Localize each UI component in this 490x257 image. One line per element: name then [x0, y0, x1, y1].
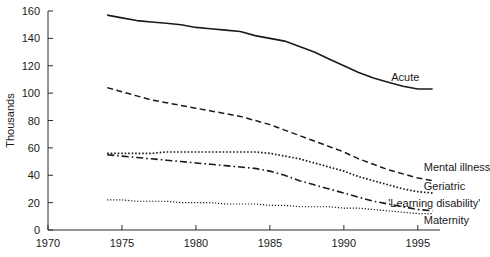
series-line-acute	[107, 15, 432, 89]
series-label-acute: Acute	[391, 71, 419, 83]
y-tick-label: 140	[22, 32, 40, 44]
x-tick-label: 1975	[110, 237, 134, 249]
x-tick-label: 1970	[36, 237, 60, 249]
series-line-maternity	[107, 200, 432, 214]
x-tick-label: 1995	[406, 237, 430, 249]
x-tick-label: 1990	[332, 237, 356, 249]
y-tick-label: 160	[22, 5, 40, 17]
y-tick-label: 0	[34, 224, 40, 236]
series-label-learning-disability: 'Learning disability'	[388, 197, 480, 209]
line-chart: 197019751980198519901995 020406080100120…	[0, 0, 490, 257]
series-labels: AcuteMental illnessGeriatric'Learning di…	[388, 71, 490, 227]
y-tick-label: 80	[28, 115, 40, 127]
tick-marks	[48, 11, 418, 230]
y-axis-title-text: Thousands	[4, 93, 16, 148]
series-line-geriatric	[107, 152, 432, 193]
axes	[48, 11, 440, 230]
x-tick-label: 1980	[184, 237, 208, 249]
chart-container: 197019751980198519901995 020406080100120…	[0, 0, 490, 257]
y-tick-labels: 020406080100120140160	[22, 5, 40, 236]
y-tick-label: 40	[28, 169, 40, 181]
y-tick-label: 120	[22, 60, 40, 72]
data-series	[107, 15, 432, 213]
y-tick-label: 60	[28, 142, 40, 154]
y-tick-label: 100	[22, 87, 40, 99]
x-tick-labels: 197019751980198519901995	[36, 237, 430, 249]
y-tick-label: 20	[28, 197, 40, 209]
y-axis-title: Thousands	[4, 93, 16, 148]
series-label-mental-illness: Mental illness	[424, 161, 490, 173]
series-label-geriatric: Geriatric	[424, 180, 466, 192]
x-tick-label: 1985	[258, 237, 282, 249]
series-line-mental-illness	[107, 88, 432, 181]
series-label-maternity: Maternity	[424, 214, 470, 226]
